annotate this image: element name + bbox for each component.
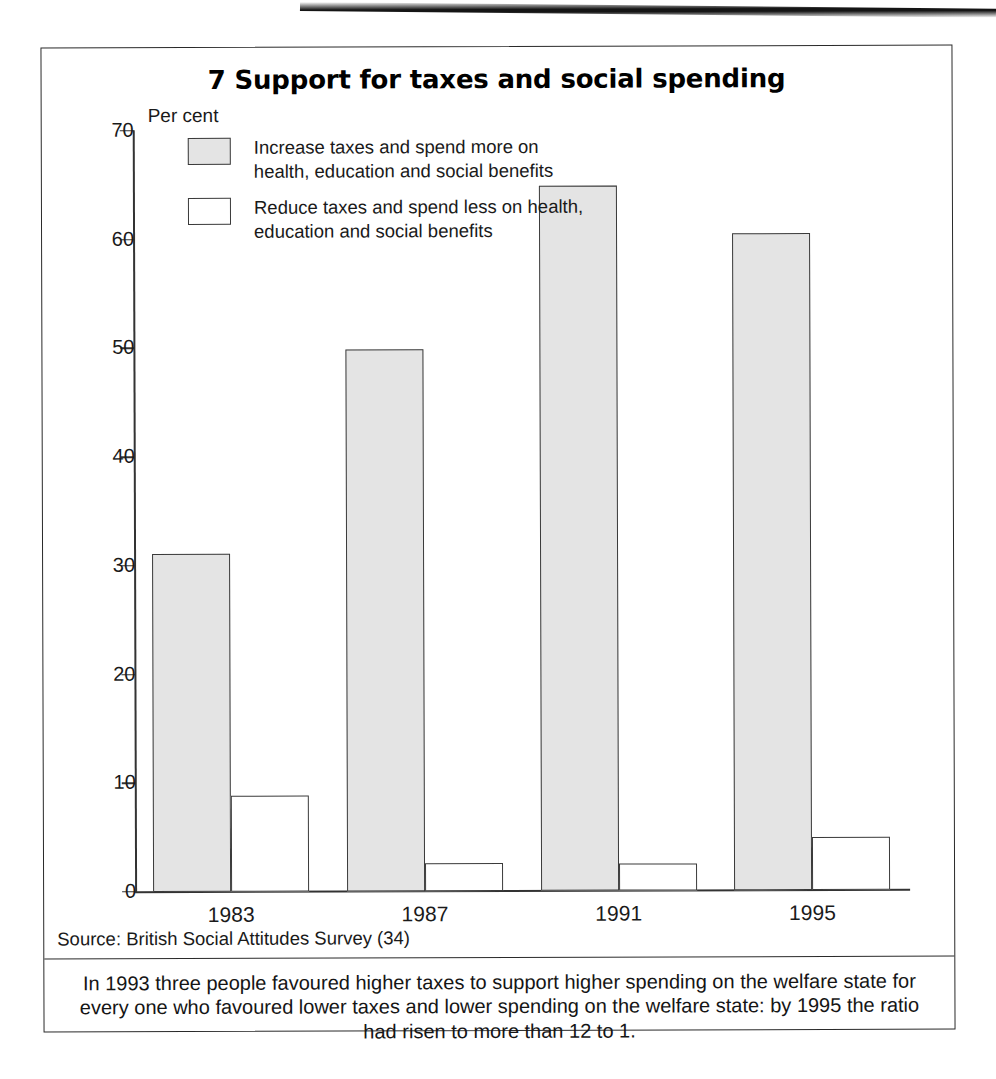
y-tick-label: 30 (89, 553, 135, 576)
y-axis-unit-label: Per cent (148, 105, 219, 127)
bar-group (41, 46, 953, 49)
y-axis-ticks: 010203040506070 (41, 46, 953, 49)
legend-swatch-white-icon (188, 198, 231, 225)
legend-item-reduce-taxes: Reduce taxes and spend less on health, e… (188, 195, 618, 244)
x-category-label-1991: 1991 (595, 902, 642, 926)
y-tick-label: 70 (88, 119, 134, 142)
y-tick-label: 50 (88, 336, 134, 359)
legend-label-increase-taxes: Increase taxes and spend more on health,… (254, 135, 553, 183)
bar-1983-series2 (231, 796, 309, 892)
bar-1983-series1 (152, 554, 231, 892)
x-axis-category-labels: 1983198719911995 (41, 46, 953, 49)
source-note: Source: British Social Attitudes Survey … (57, 927, 410, 950)
legend-label-line1: Reduce taxes and spend less on health, (254, 196, 583, 218)
scan-edge-artifact (300, 2, 996, 18)
bar-1987-series2 (425, 863, 503, 891)
bar-1987-series1 (345, 349, 425, 892)
bar-1995-series2 (812, 837, 890, 890)
legend-item-increase-taxes: Increase taxes and spend more on health,… (188, 135, 618, 184)
bar-1995-series1 (732, 233, 812, 890)
chart-legend: Increase taxes and spend more on health,… (188, 135, 618, 257)
figure-container: 7 Support for taxes and social spending … (40, 45, 955, 1033)
x-category-label-1983: 1983 (208, 903, 255, 927)
legend-label-line2: education and social benefits (254, 220, 493, 242)
y-tick-label: 10 (90, 771, 136, 794)
x-category-label-1987: 1987 (402, 902, 449, 926)
y-tick-label: 0 (90, 880, 136, 903)
legend-label-line1: Increase taxes and spend more on (254, 136, 539, 158)
y-tick-label: 60 (88, 227, 134, 250)
legend-label-reduce-taxes: Reduce taxes and spend less on health, e… (254, 195, 583, 243)
bar-1991-series1 (538, 185, 618, 891)
legend-label-line2: health, education and social benefits (254, 159, 553, 181)
caption-text: In 1993 three people favoured higher tax… (66, 969, 932, 1045)
plot-area: Per cent 010203040506070 198319871991199… (41, 46, 956, 949)
x-category-label-1995: 1995 (789, 901, 836, 925)
bar-1991-series2 (619, 863, 697, 890)
legend-swatch-grey-icon (188, 138, 231, 165)
caption-box: In 1993 three people favoured higher tax… (44, 956, 954, 1045)
y-tick-label: 20 (89, 662, 135, 685)
y-tick-label: 40 (89, 445, 135, 468)
